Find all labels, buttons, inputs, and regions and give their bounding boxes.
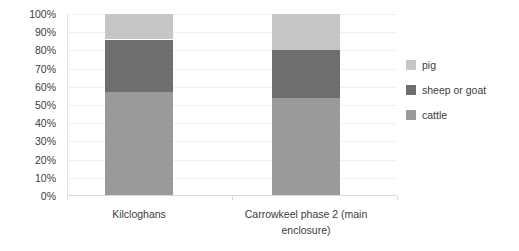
bar-segment-sheep-or-goat[interactable] — [272, 50, 340, 97]
y-axis-tick-label: 10% — [35, 172, 56, 183]
y-axis-tick-label: 80% — [35, 45, 56, 56]
x-axis-tick-mark — [397, 196, 398, 200]
legend-label: sheep or goat — [422, 84, 486, 96]
y-axis-tick-label: 100% — [29, 9, 56, 20]
plot-area — [67, 14, 397, 196]
x-axis-category-label: Kilcloghans — [64, 206, 214, 222]
legend-item[interactable]: pig — [406, 52, 518, 77]
y-axis-tick-label: 90% — [35, 27, 56, 38]
bar-segment-cattle[interactable] — [272, 98, 340, 196]
y-axis: 0%10%20%30%40%50%60%70%80%90%100% — [0, 0, 60, 251]
bar-group[interactable] — [272, 14, 340, 196]
legend-swatch-icon — [406, 60, 416, 70]
legend-swatch-icon — [406, 85, 416, 95]
y-axis-tick-label: 50% — [35, 100, 56, 111]
y-axis-tick-label: 0% — [41, 191, 56, 202]
y-axis-tick-label: 60% — [35, 81, 56, 92]
x-axis-tick-mark — [67, 196, 68, 200]
legend-item[interactable]: cattle — [406, 102, 518, 127]
bar-segment-sheep-or-goat[interactable] — [105, 40, 173, 93]
bar-segment-pig[interactable] — [105, 14, 173, 39]
legend-item[interactable]: sheep or goat — [406, 77, 518, 102]
y-axis-tick-label: 20% — [35, 154, 56, 165]
y-axis-tick-label: 30% — [35, 136, 56, 147]
x-axis-category-label: Carrowkeel phase 2 (main enclosure) — [226, 206, 386, 238]
x-axis-tick-mark — [232, 196, 233, 200]
stacked-bar-chart: 0%10%20%30%40%50%60%70%80%90%100% Kilclo… — [0, 0, 519, 251]
legend-label: pig — [422, 59, 436, 71]
y-axis-tick-label: 40% — [35, 118, 56, 129]
bar-segment-cattle[interactable] — [105, 92, 173, 196]
legend-label: cattle — [422, 109, 447, 121]
y-axis-tick-label: 70% — [35, 63, 56, 74]
bar-group[interactable] — [105, 14, 173, 196]
bar-segment-pig[interactable] — [272, 14, 340, 50]
legend: pigsheep or goatcattle — [406, 52, 518, 127]
y-axis-line — [67, 14, 68, 196]
legend-swatch-icon — [406, 110, 416, 120]
